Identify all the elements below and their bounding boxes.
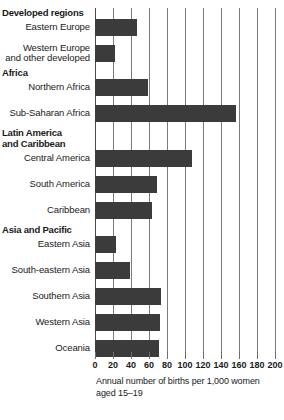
bar xyxy=(95,105,236,122)
group-heading: and Caribbean xyxy=(2,139,92,149)
caption-line: Annual number of births per 1,000 women xyxy=(96,376,282,388)
tick-label-200: 200 xyxy=(267,360,282,371)
tick-label-80: 80 xyxy=(162,360,172,371)
tick-160 xyxy=(239,352,240,359)
tick-label-120: 120 xyxy=(195,360,210,371)
tick-100 xyxy=(185,352,186,359)
bar xyxy=(95,79,148,96)
tick-180 xyxy=(257,352,258,359)
x-axis-caption: Annual number of births per 1,000 womena… xyxy=(96,376,282,399)
group-heading: Africa xyxy=(2,68,92,79)
category-label: Oceania xyxy=(0,343,90,354)
bar-chart: Developed regionsEastern EuropeWestern E… xyxy=(0,0,284,420)
category-label: South America xyxy=(0,179,90,190)
category-label: Eastern Europe xyxy=(0,22,90,33)
tick-200 xyxy=(275,352,276,359)
category-label: South-eastern Asia xyxy=(0,265,90,276)
tick-label-160: 160 xyxy=(231,360,246,371)
bar xyxy=(95,176,157,193)
tick-60 xyxy=(149,352,150,359)
tick-140 xyxy=(221,352,222,359)
tick-20 xyxy=(113,352,114,359)
bar xyxy=(95,150,192,167)
category-label: Caribbean xyxy=(0,205,90,216)
bar xyxy=(95,202,152,219)
tick-label-100: 100 xyxy=(177,360,192,371)
category-label: Southern Asia xyxy=(0,291,90,302)
category-label: and other developed xyxy=(0,53,90,64)
tick-label-140: 140 xyxy=(213,360,228,371)
group-heading: Asia and Pacific xyxy=(2,225,92,236)
tick-0 xyxy=(95,352,96,359)
tick-80 xyxy=(167,352,168,359)
tick-label-0: 0 xyxy=(92,360,97,371)
tick-40 xyxy=(131,352,132,359)
bar xyxy=(95,236,116,253)
bar xyxy=(95,288,161,305)
tick-120 xyxy=(203,352,204,359)
tick-label-40: 40 xyxy=(126,360,136,371)
category-label: Western Asia xyxy=(0,317,90,328)
plot-area xyxy=(95,8,275,352)
bar xyxy=(95,314,160,331)
bar xyxy=(95,262,130,279)
category-label: Central America xyxy=(0,153,90,164)
bar xyxy=(95,45,115,62)
bar-rows xyxy=(95,8,275,352)
x-axis-tick-labels: 020406080100120140160180200 xyxy=(95,360,275,372)
category-label: Northern Africa xyxy=(0,82,90,93)
tick-label-20: 20 xyxy=(108,360,118,371)
caption-line: aged 15–19 xyxy=(96,388,282,400)
category-label: Eastern Asia xyxy=(0,239,90,250)
group-heading: Latin America xyxy=(2,128,92,138)
bar xyxy=(95,19,137,36)
group-heading: Developed regions xyxy=(2,8,92,19)
category-label: Sub-Saharan Africa xyxy=(0,108,90,119)
tick-label-180: 180 xyxy=(249,360,264,371)
category-label-column: Developed regionsEastern EuropeWestern E… xyxy=(0,8,90,352)
x-axis-ticks xyxy=(95,352,275,359)
tick-label-60: 60 xyxy=(144,360,154,371)
gridline-200 xyxy=(275,8,276,352)
